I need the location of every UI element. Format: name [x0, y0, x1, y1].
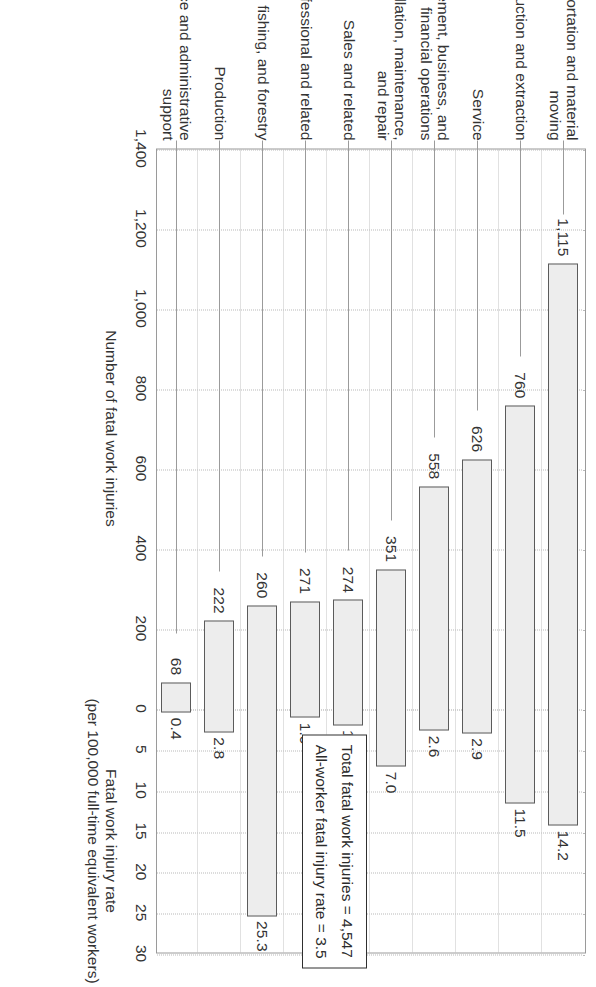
tick-label-count: 1,400 — [132, 129, 150, 168]
bar-value-count: 271 — [297, 567, 315, 593]
category-label-line: Installation, maintenance, — [393, 0, 410, 140]
bar[interactable] — [463, 459, 493, 733]
chart-figure: Transportation and materialmovingConstru… — [0, 0, 596, 987]
callout-line-2: All-worker fatal injury rate = 3.5 — [309, 744, 335, 958]
bar[interactable] — [377, 569, 407, 767]
tick-label-rate: 30 — [132, 944, 150, 961]
bar[interactable] — [334, 599, 364, 724]
category-label-line: Production — [212, 66, 229, 140]
right-axis-title: Fatal work injury rate(per 100,000 full-… — [84, 648, 120, 987]
category-leader-line — [349, 140, 350, 550]
summary-callout: Total fatal work injuries = 4,547 All-wo… — [302, 734, 367, 968]
bar-value-count: 260 — [254, 572, 272, 598]
right-axis-title-line1: Fatal work injury rate — [103, 769, 120, 913]
category-label: Management, business, andfinancial opera… — [418, 0, 453, 140]
tick-label-count: 200 — [132, 615, 150, 641]
bar-value-count: 558 — [426, 453, 444, 479]
category-leader-line — [392, 140, 393, 520]
bar-value-count: 222 — [211, 587, 229, 613]
right-axis-title-line2: (per 100,000 full-time equivalent worker… — [84, 648, 102, 987]
category-label: Farming, fishing, and forestry — [255, 0, 272, 140]
tick-label-rate: 25 — [132, 904, 150, 921]
category-label-column: Transportation and materialmovingConstru… — [156, 0, 586, 140]
category-label: Office and administrativesupport — [160, 0, 195, 140]
category-label-line: Transportation and material — [565, 0, 582, 140]
bar-value-rate: 7.0 — [383, 771, 401, 793]
bar-value-rate: 11.5 — [512, 808, 530, 837]
category-label: Installation, maintenance,and repair — [375, 0, 410, 140]
category-leader-line — [435, 140, 436, 437]
bar-value-count: 68 — [168, 657, 186, 674]
category-label: Sales and related — [341, 19, 358, 140]
category-label-line: financial operations — [418, 0, 435, 140]
chart-row: 1,11514.2 — [542, 149, 585, 952]
tick-label-rate: 20 — [132, 863, 150, 880]
gridline-rate-30 — [157, 954, 585, 955]
bar[interactable] — [506, 405, 536, 803]
category-label: Professional and related — [298, 0, 315, 140]
tick-label-rate: 15 — [132, 822, 150, 839]
category-leader-line — [220, 140, 221, 571]
category-label-line: Professional and related — [298, 0, 315, 140]
category-label-line: Office and administrative — [178, 0, 195, 140]
category-leader-line — [564, 140, 565, 214]
tick-label-count: 1,000 — [132, 289, 150, 328]
bar-value-count: 1,115 — [555, 218, 573, 256]
category-label: Construction and extraction — [513, 0, 530, 140]
bar-value-rate: 2.9 — [469, 738, 487, 760]
tick-label-count: 1,200 — [132, 209, 150, 248]
category-leader-line — [177, 140, 178, 633]
category-leader-line — [521, 140, 522, 356]
category-leader-line — [478, 140, 479, 410]
category-label-line: Management, business, and — [436, 0, 453, 140]
bar-value-rate: 0.4 — [168, 717, 186, 739]
callout-line-1: Total fatal work injuries = 4,547 — [334, 744, 360, 958]
category-leader-line — [263, 140, 264, 556]
tick-label-count: 0 — [132, 704, 150, 713]
bar-value-rate: 14.2 — [555, 830, 573, 861]
category-label-line: Service — [470, 88, 487, 140]
bar-value-count: 274 — [340, 566, 358, 592]
tick-label-count: 600 — [132, 455, 150, 481]
bar-value-rate: 25.3 — [254, 921, 272, 952]
category-leader-line — [306, 140, 307, 552]
rotated-figure-wrapper: Transportation and materialmovingConstru… — [0, 0, 596, 987]
tick-label-count: 800 — [132, 375, 150, 401]
bar[interactable] — [162, 682, 192, 712]
category-label-line: and repair — [375, 0, 392, 140]
bar[interactable] — [549, 263, 579, 825]
category-label-line: Farming, fishing, and forestry — [255, 0, 272, 140]
bar-value-rate: 2.8 — [211, 737, 229, 759]
category-label-line: Construction and extraction — [513, 0, 530, 140]
category-label: Transportation and materialmoving — [547, 0, 582, 140]
tick-label-rate: 10 — [132, 781, 150, 798]
category-label: Service — [470, 88, 487, 140]
category-label: Production — [212, 66, 229, 140]
plot-area: 1,11514.276011.56262.95582.63517.02741.9… — [156, 148, 586, 953]
category-label-line: support — [160, 0, 177, 140]
bar-value-count: 626 — [469, 425, 487, 451]
bar[interactable] — [291, 601, 321, 718]
bar-value-count: 760 — [512, 372, 530, 398]
category-label-line: Sales and related — [341, 19, 358, 140]
left-axis-title: Number of fatal work injuries — [102, 148, 120, 708]
bar[interactable] — [420, 486, 450, 730]
category-label-line: moving — [547, 0, 564, 140]
bar[interactable] — [205, 620, 235, 732]
bar[interactable] — [248, 605, 278, 916]
bar-value-count: 351 — [383, 535, 401, 561]
tick-label-rate: 5 — [132, 745, 150, 754]
tick-label-count: 400 — [132, 535, 150, 561]
bar-value-rate: 2.6 — [426, 735, 444, 757]
